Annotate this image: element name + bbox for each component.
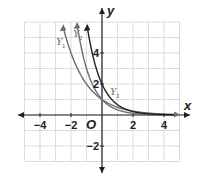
x-tick-label: 2 [130, 119, 136, 131]
x-tick-label: 4 [161, 119, 168, 131]
curve-arrow-icon [84, 24, 91, 31]
y-tick-label: 2 [93, 78, 99, 90]
y-axis-arrow-up-icon [99, 8, 105, 14]
curve-y3 [87, 27, 176, 115]
y-axis-label: y [106, 3, 115, 18]
x-tick-label: −2 [65, 119, 78, 131]
x-axis-label: x [183, 98, 192, 113]
y-axis-arrow-down-icon [99, 167, 105, 173]
x-axis-arrow-left-icon [18, 112, 24, 118]
graph: −4−22442−2OxyY1Y2Y3 [0, 0, 202, 190]
curve-label-subscript: 1 [62, 43, 66, 49]
curve-label-subscript: 2 [79, 35, 83, 41]
origin-label: O [86, 117, 96, 132]
labels: −4−22442−2OxyY1Y2Y3 [34, 3, 192, 152]
y-tick-label: −2 [86, 140, 99, 152]
curve-label-subscript: 3 [116, 93, 120, 99]
y-tick-label: 4 [93, 47, 100, 59]
curve-y2 [77, 25, 176, 115]
x-tick-label: −4 [34, 119, 47, 131]
curve-arrow-icon [60, 24, 67, 31]
